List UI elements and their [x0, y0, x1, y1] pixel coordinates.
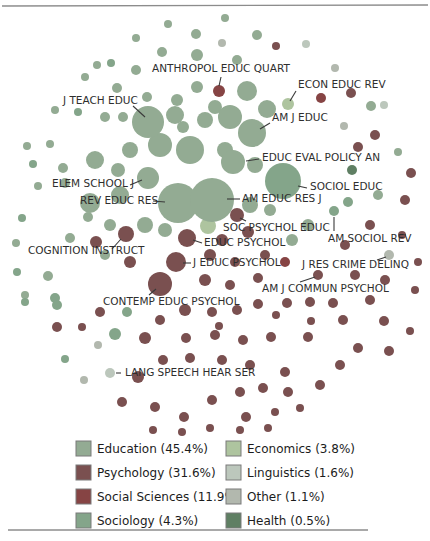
label-anthropol-educ-quart: ANTHROPOL EDUC QUART — [152, 62, 290, 74]
bubble — [199, 274, 211, 286]
bubble-j-educ-psychol — [166, 252, 186, 272]
bubble — [21, 298, 29, 306]
bubble-am-j-educ — [238, 119, 266, 147]
label-educ-eval-policy-an: EDUC EVAL POLICY AN — [262, 151, 380, 163]
bubble — [328, 298, 338, 308]
label-econ-educ-rev: ECON EDUC REV — [298, 78, 386, 90]
bubble-lang-speech-hear-ser — [105, 368, 115, 378]
label-j-res-crime-delinq: J RES CRIME DELINQ — [301, 258, 409, 270]
bubble — [181, 333, 191, 343]
leader-line-econ-educ-rev — [290, 91, 296, 101]
bubble — [171, 94, 183, 106]
bubble — [280, 367, 290, 377]
bubble — [191, 29, 201, 39]
bubble — [264, 204, 276, 216]
journal-bubble-map-figure: ANTHROPOL EDUC QUARTECON EDUC REVJ TEACH… — [0, 0, 430, 541]
bubble — [122, 307, 132, 317]
bubble — [52, 322, 62, 332]
bubble — [236, 426, 244, 434]
bubble — [179, 412, 189, 422]
bubble — [207, 307, 217, 317]
bubble — [107, 59, 115, 67]
bubble — [81, 73, 89, 81]
bubble — [272, 42, 280, 50]
legend-label-health: Health (0.5%) — [247, 514, 330, 528]
bubble — [221, 14, 229, 22]
legend-label-linguistics: Linguistics (1.6%) — [247, 466, 354, 480]
legend-swatch-other — [226, 489, 241, 504]
top-rule — [2, 5, 428, 6]
legend-item-social-sciences: Social Sciences (11.9%) — [76, 489, 240, 504]
bubble — [350, 270, 360, 280]
bubble — [142, 92, 152, 102]
legend-item-linguistics: Linguistics (1.6%) — [226, 465, 354, 480]
label-elem-school-j: ELEM SCHOOL J — [52, 177, 134, 189]
bubble — [406, 327, 414, 335]
bubble — [379, 316, 389, 326]
bubble — [253, 299, 263, 309]
label-am-sociol-rev: AM SOCIOL REV — [328, 232, 412, 244]
bubble — [271, 408, 279, 416]
bubble — [210, 330, 220, 340]
bubble — [206, 424, 214, 432]
bubble — [282, 298, 292, 308]
bubble-chart: ANTHROPOL EDUC QUARTECON EDUC REVJ TEACH… — [0, 0, 430, 541]
bubble — [207, 395, 217, 405]
bubble — [217, 355, 227, 365]
bubble — [365, 220, 375, 230]
bubble — [93, 61, 101, 69]
label-am-educ-res-j: AM EDUC RES J — [242, 192, 322, 204]
bubble — [155, 315, 165, 325]
bubble — [366, 101, 376, 111]
legend-label-economics: Economics (3.8%) — [247, 442, 355, 456]
label-rev-educ-res: REV EDUC RES — [80, 194, 158, 206]
bubble — [296, 404, 304, 412]
label-am-j-educ: AM J EDUC — [272, 111, 328, 123]
bubble — [23, 142, 31, 150]
legend-label-sociology: Sociology (4.3%) — [97, 514, 198, 528]
bubble — [109, 328, 121, 340]
bubble — [264, 424, 272, 432]
bubble — [191, 81, 203, 93]
bubble — [178, 428, 186, 436]
bubble — [100, 112, 110, 122]
legend-swatch-health — [226, 513, 241, 528]
bubble — [111, 163, 125, 177]
label-sociol-educ: SOCIOL EDUC — [310, 180, 383, 192]
bubble-am-sociol-rev — [329, 206, 339, 216]
bubble — [94, 341, 102, 349]
label-soc-psychol-educ: SOC PSYCHOL EDUC — [223, 221, 330, 233]
bubble — [61, 355, 69, 363]
bubble — [118, 112, 128, 122]
bubble — [400, 195, 410, 205]
bubble — [166, 106, 184, 124]
bubble — [414, 258, 422, 266]
bubble — [13, 268, 21, 276]
bubble-econ-educ-rev — [282, 98, 294, 110]
bubble — [112, 83, 122, 93]
bubble — [185, 353, 195, 363]
bubble — [21, 291, 29, 299]
bubble — [80, 376, 88, 384]
bubble — [380, 101, 388, 109]
bubble — [238, 335, 248, 345]
bubble — [46, 140, 54, 148]
bubble — [158, 223, 172, 237]
bubble — [340, 122, 348, 130]
bubble — [86, 151, 104, 169]
label-cognition-instruct: COGNITION INSTRUCT — [28, 244, 145, 256]
bubble — [149, 426, 157, 434]
legend-swatch-sociology — [76, 513, 91, 528]
bubble — [83, 212, 93, 222]
bubble — [272, 311, 280, 319]
bubble — [335, 360, 345, 370]
bubble — [283, 387, 293, 397]
bubble — [78, 323, 86, 331]
bubble — [218, 105, 242, 129]
bubble — [331, 64, 339, 72]
bubble-j-teach-educ — [132, 106, 164, 138]
bubble — [370, 130, 380, 140]
bubble — [303, 332, 313, 342]
legend-swatch-psychology — [76, 465, 91, 480]
bubble — [266, 332, 276, 342]
